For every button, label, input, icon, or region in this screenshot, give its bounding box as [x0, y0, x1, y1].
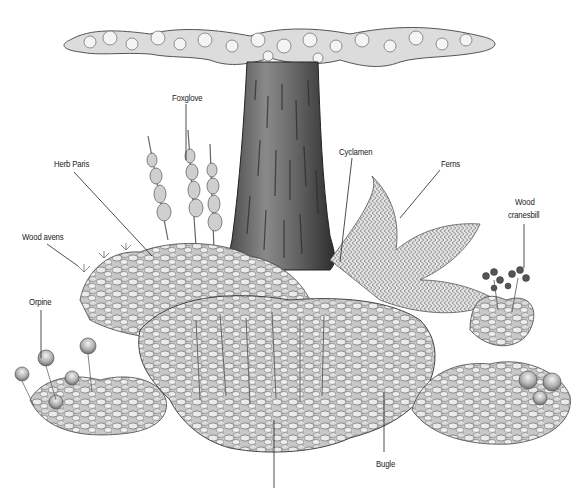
woodland-planting-diagram: Foxglove Herb Paris Cyclamen Ferns Wood …: [0, 0, 584, 491]
foxglove-plants: [147, 130, 222, 250]
label-orpine: Orpine: [29, 296, 51, 307]
tree-trunk: [228, 62, 334, 270]
label-ferns: Ferns: [441, 158, 460, 169]
illustration: [0, 0, 584, 491]
label-wood-cranesbill-line1: Wood: [515, 196, 535, 207]
label-wood-cranesbill-line2: cranesbill: [508, 209, 539, 220]
label-bugle: Bugle: [376, 458, 395, 469]
label-herb-paris: Herb Paris: [54, 158, 89, 169]
wood-cranesbill-plant: [470, 267, 534, 346]
ground-cover: [139, 296, 435, 452]
leader-ferns: [400, 170, 440, 218]
tree-canopy: [64, 28, 495, 67]
leader-wood-avens: [47, 244, 78, 266]
leader-herb-paris: [74, 172, 152, 256]
label-foxglove: Foxglove: [172, 92, 202, 103]
fern-plants: [330, 176, 496, 313]
label-wood-avens: Wood avens: [22, 231, 64, 242]
label-cyclamen: Cyclamen: [339, 146, 372, 157]
right-bottom-foliage: [412, 362, 570, 444]
